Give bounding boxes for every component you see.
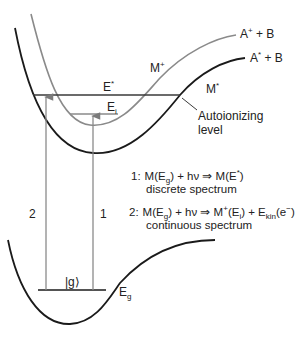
arrow-2-label: 2 (29, 207, 36, 221)
ion-asymptote-label: A+ + B (240, 26, 274, 41)
autoionizing-pointer-line (182, 98, 197, 110)
arrow-1-label: 1 (100, 207, 107, 221)
potential-energy-diagram: A+ + B A* + B M+ M* E* Ei Autoionizing l… (0, 0, 307, 342)
autoionizing-label-line1: Autoionizing (198, 109, 263, 123)
e-star-label: E* (103, 79, 114, 94)
e-i-label: Ei (107, 100, 117, 116)
equation-2-caption: continuous spectrum (146, 219, 252, 231)
ground-ket-label: |g⟩ (65, 275, 80, 289)
e-g-label: Eg (119, 285, 131, 301)
excited-asymptote-label: A* + B (250, 50, 283, 65)
autoionizing-label-line2: level (198, 123, 223, 137)
ion-curve-label: M+ (150, 60, 165, 75)
equation-1-caption: discrete spectrum (146, 183, 237, 195)
excited-curve-label: M* (206, 81, 219, 96)
ground-state-curve (8, 240, 215, 324)
